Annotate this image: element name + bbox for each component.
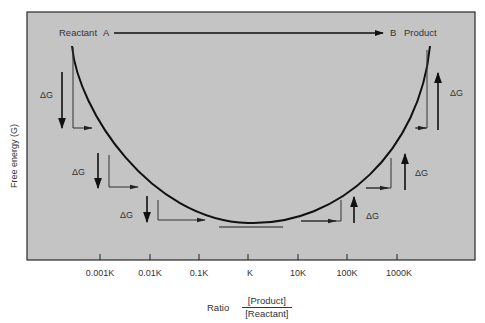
delta-g-label: ΔG xyxy=(450,88,463,98)
x-tick-label: 10K xyxy=(290,268,306,278)
delta-g-label: ΔG xyxy=(40,90,53,100)
y-axis-label: Free energy (G) xyxy=(4,96,24,216)
x-tick-label: K xyxy=(247,268,253,278)
delta-g-label: ΔG xyxy=(120,210,133,220)
x-tick-label: 1000K xyxy=(386,268,412,278)
delta-g-label: ΔG xyxy=(415,168,428,178)
x-tick-label: 100K xyxy=(336,268,357,278)
y-axis-label-text: Free energy (G) xyxy=(9,124,19,188)
x-tick-label: 0.1K xyxy=(190,268,209,278)
reactant-symbol: A xyxy=(103,27,110,38)
x-tick-label: 0.01K xyxy=(138,268,162,278)
product-symbol: B xyxy=(390,27,396,38)
delta-g-label: ΔG xyxy=(366,211,379,221)
product-label: Product xyxy=(404,27,437,38)
ratio-numerator: [Product] xyxy=(242,296,292,308)
x-axis-label: Ratio [Product] [Reactant] xyxy=(207,296,295,319)
ratio-fraction: [Product] [Reactant] xyxy=(239,296,294,319)
x-tick-label: 0.001K xyxy=(86,268,115,278)
free-energy-diagram: Reactant A B Product ΔG ΔG ΔG ΔG ΔG ΔG 0… xyxy=(0,0,485,323)
x-axis-label-prefix: Ratio xyxy=(207,302,229,313)
delta-g-label: ΔG xyxy=(72,167,85,177)
reactant-label: Reactant xyxy=(59,27,97,38)
ratio-denominator: [Reactant] xyxy=(239,308,294,319)
